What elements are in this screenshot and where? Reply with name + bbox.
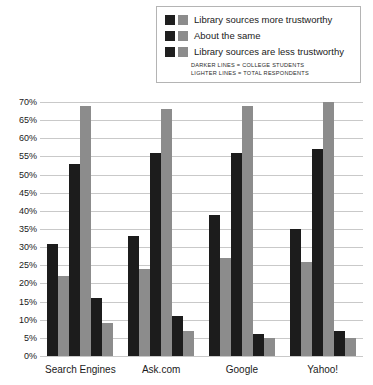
- bar: [334, 331, 345, 356]
- bar-group: [282, 102, 363, 356]
- bar: [312, 149, 323, 356]
- bar: [264, 338, 275, 356]
- bar: [253, 334, 264, 356]
- bar: [301, 262, 312, 356]
- y-axis-tick-label: 40%: [3, 206, 37, 215]
- dark-swatch-icon: [165, 15, 175, 25]
- y-axis-tick-label: 60%: [3, 134, 37, 143]
- gridline: [40, 356, 363, 357]
- bar-group: [40, 102, 121, 356]
- y-axis-tick-label: 0%: [3, 352, 37, 361]
- legend-note-darker-lines: DARKER LINES = COLLEGE STUDENTS: [191, 61, 352, 69]
- plot-area: [40, 102, 363, 356]
- bar: [102, 323, 113, 356]
- chart-legend: Library sources more trustworthy About t…: [156, 6, 361, 83]
- bar: [161, 109, 172, 356]
- light-swatch-icon: [178, 31, 188, 41]
- y-axis-tick-label: 45%: [3, 188, 37, 197]
- bar: [345, 338, 356, 356]
- bar: [323, 102, 334, 356]
- x-axis-tick-label: Search Engines: [40, 364, 121, 376]
- bar: [209, 215, 220, 357]
- y-axis-tick-label: 65%: [3, 116, 37, 125]
- legend-entry-label: Library sources more trustworthy: [194, 14, 332, 25]
- bar: [91, 298, 102, 356]
- y-axis-tick-label: 5%: [3, 333, 37, 342]
- bar-group: [121, 102, 202, 356]
- bar: [220, 258, 231, 356]
- y-axis-tick-label: 70%: [3, 98, 37, 107]
- bar: [139, 269, 150, 356]
- y-axis-tick-label: 15%: [3, 297, 37, 306]
- y-axis: 70%65%60%55%50%45%40%35%30%25%20%15%10%5…: [0, 102, 37, 356]
- legend-entry-about-the-same: About the same: [165, 29, 352, 42]
- bar: [290, 229, 301, 356]
- bar: [242, 106, 253, 356]
- y-axis-tick-label: 25%: [3, 261, 37, 270]
- legend-entry-more-trustworthy: Library sources more trustworthy: [165, 13, 352, 26]
- legend-note-lighter-lines: LIGHTER LINES = TOTAL RESPONDENTS: [191, 69, 352, 77]
- x-axis-tick-label: Yahoo!: [282, 364, 363, 376]
- y-axis-tick-label: 30%: [3, 243, 37, 252]
- light-swatch-icon: [178, 15, 188, 25]
- bar: [231, 153, 242, 356]
- bar: [80, 106, 91, 356]
- bar-group: [202, 102, 283, 356]
- x-axis-tick-label: Google: [202, 364, 283, 376]
- light-swatch-icon: [178, 47, 188, 57]
- bar: [150, 153, 161, 356]
- bar: [69, 164, 80, 356]
- bar: [172, 316, 183, 356]
- bar-chart-figure: Library sources more trustworthy About t…: [0, 0, 373, 385]
- dark-swatch-icon: [165, 47, 175, 57]
- bar: [128, 236, 139, 356]
- y-axis-tick-label: 55%: [3, 152, 37, 161]
- bar: [58, 276, 69, 356]
- legend-entry-label: Library sources are less trustworthy: [194, 46, 344, 57]
- legend-entry-label: About the same: [194, 30, 261, 41]
- y-axis-tick-label: 50%: [3, 170, 37, 179]
- y-axis-tick-label: 20%: [3, 279, 37, 288]
- dark-swatch-icon: [165, 31, 175, 41]
- y-axis-tick-label: 10%: [3, 315, 37, 324]
- bar: [183, 331, 194, 356]
- x-axis-tick-label: Ask.com: [121, 364, 202, 376]
- legend-entry-less-trustworthy: Library sources are less trustworthy: [165, 45, 352, 58]
- y-axis-tick-label: 35%: [3, 225, 37, 234]
- bar: [47, 244, 58, 356]
